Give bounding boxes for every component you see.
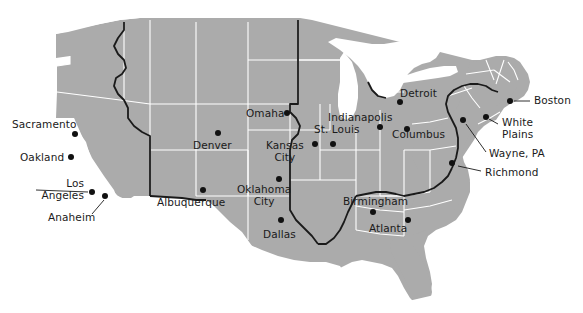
- city-label-anaheim: Anaheim: [48, 212, 95, 224]
- city-label-sacramento: Sacramento: [12, 119, 77, 131]
- city-dot-denver[interactable]: [215, 130, 221, 136]
- city-label-atlanta: Atlanta: [369, 223, 407, 235]
- city-label-indianapolis: Indianapolis: [328, 112, 392, 124]
- city-label-kansas-city: Kansas City: [266, 140, 304, 163]
- city-label-boston: Boston: [534, 95, 571, 107]
- city-dot-sacramento[interactable]: [72, 131, 78, 137]
- city-dot-oakland[interactable]: [68, 154, 74, 160]
- city-dot-wayne-pa[interactable]: [460, 117, 466, 123]
- city-label-wayne-pa: Wayne, PA: [489, 148, 545, 160]
- city-label-omaha: Omaha: [246, 108, 285, 120]
- city-label-dallas: Dallas: [263, 229, 296, 241]
- city-label-st-louis: St. Louis: [314, 124, 360, 136]
- city-dot-indianapolis[interactable]: [377, 124, 383, 130]
- city-dot-los-angeles[interactable]: [89, 189, 95, 195]
- city-label-oakland: Oakland: [20, 152, 64, 164]
- city-dot-boston[interactable]: [507, 98, 513, 104]
- city-label-los-angeles: Los Angeles: [0, 178, 84, 201]
- city-label-white-plains: White Plains: [502, 117, 533, 140]
- city-dot-dallas[interactable]: [278, 217, 284, 223]
- city-label-columbus: Columbus: [392, 129, 445, 141]
- city-dot-omaha[interactable]: [284, 110, 290, 116]
- city-label-birmingham: Birmingham: [343, 196, 408, 208]
- city-dot-atlanta[interactable]: [405, 217, 411, 223]
- city-dot-oklahoma-city[interactable]: [276, 176, 282, 182]
- city-label-oklahoma-city: Oklahoma City: [237, 184, 291, 207]
- city-dot-kansas-city[interactable]: [312, 141, 318, 147]
- city-dot-richmond[interactable]: [449, 160, 455, 166]
- city-label-albuquerque: Albuquerque: [157, 197, 225, 209]
- city-dot-st-louis[interactable]: [330, 141, 336, 147]
- city-dot-birmingham[interactable]: [370, 209, 376, 215]
- city-dot-albuquerque[interactable]: [200, 187, 206, 193]
- city-label-denver: Denver: [193, 140, 232, 152]
- map-canvas: mapping: [0, 0, 583, 313]
- city-dot-detroit[interactable]: [397, 99, 403, 105]
- city-label-richmond: Richmond: [485, 167, 538, 179]
- city-label-detroit: Detroit: [400, 88, 437, 100]
- city-dot-columbus[interactable]: [404, 126, 410, 132]
- city-dot-white-plains[interactable]: [483, 114, 489, 120]
- city-dot-anaheim[interactable]: [102, 193, 108, 199]
